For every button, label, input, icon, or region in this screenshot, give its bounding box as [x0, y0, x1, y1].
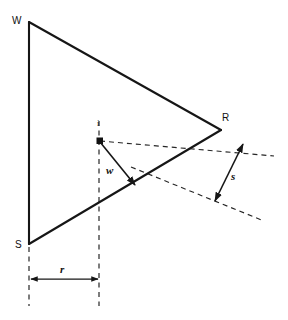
- guide-lower-dashed-line: [131, 167, 264, 221]
- guide-upper-dashed-line: [100, 141, 274, 156]
- vertex-label-w: W: [12, 16, 21, 26]
- geometry-diagram: W R S i w s r: [0, 0, 288, 320]
- vertex-label-s: S: [15, 240, 22, 250]
- point-label-i: i: [97, 119, 100, 128]
- edge-w-to-r: [29, 22, 221, 130]
- diagram-canvas: [0, 0, 288, 320]
- measure-label-r: r: [60, 264, 64, 275]
- edge-r-to-s: [29, 130, 221, 244]
- point-marker-i: [97, 138, 104, 145]
- vertex-label-r: R: [222, 113, 229, 123]
- measure-label-w: w: [106, 165, 113, 176]
- measure-label-s: s: [231, 171, 235, 182]
